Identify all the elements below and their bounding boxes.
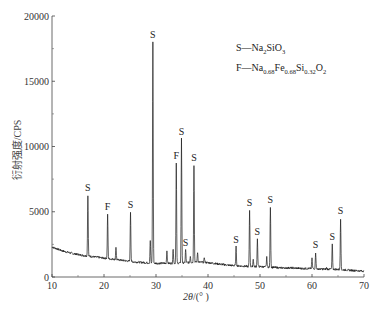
peak-label-s: S [329, 231, 335, 242]
x-tick-label: 60 [307, 280, 317, 291]
y-ticks: 05000100001500020000 [24, 11, 55, 283]
y-axis-label: 衍射强度/CPS [9, 110, 24, 190]
peak-label-s: S [191, 152, 197, 163]
y-tick-label: 10000 [24, 141, 49, 152]
peak-label-s: S [255, 226, 261, 237]
peak-label-s: S [183, 237, 189, 248]
legend-entry-f: F—Na0.68Fe0.68Si0.32O2 [236, 60, 326, 80]
legend: S—Na2SiO3 F—Na0.68Fe0.68Si0.32O2 [236, 40, 326, 80]
legend-f-text2: Fe [275, 62, 285, 73]
peak-label-f: F [173, 150, 179, 161]
legend-entry-s: S—Na2SiO3 [236, 40, 326, 60]
peak-label-s: S [128, 199, 134, 210]
peak-label-s: S [233, 234, 239, 245]
peak-label-s: S [150, 29, 156, 40]
peak-label-s: S [313, 239, 319, 250]
x-tick-label: 30 [151, 280, 161, 291]
peak-label-s: S [179, 126, 185, 137]
x-tick-label: 70 [359, 280, 369, 291]
peak-label-s: S [268, 194, 274, 205]
x-axis-unit: /(° ) [193, 291, 209, 302]
legend-s-text2: SiO [266, 42, 282, 53]
y-tick-label: 20000 [24, 11, 49, 22]
peak-label-s: S [247, 197, 253, 208]
x-tick-label: 50 [255, 280, 265, 291]
legend-f-sub2: 0.68 [285, 68, 296, 75]
x-axis-variable: 2θ [183, 291, 193, 302]
x-axis-label: 2θ/(° ) [183, 291, 209, 302]
x-tick-label: 20 [99, 280, 109, 291]
x-tick-label: 40 [203, 280, 213, 291]
y-tick-label: 15000 [24, 76, 49, 87]
peak-label-f: F [105, 201, 111, 212]
x-ticks: 10203040506070 [47, 274, 369, 291]
legend-f-sub3: 0.32 [304, 68, 315, 75]
legend-f-text: F—Na [236, 62, 263, 73]
y-tick-label: 5000 [29, 206, 49, 217]
legend-s-text: S—Na [236, 42, 263, 53]
legend-f-text4: O [316, 62, 323, 73]
peak-label-s: S [338, 205, 344, 216]
legend-f-sub1: 0.68 [263, 68, 274, 75]
peak-label-s: S [85, 182, 91, 193]
legend-s-sub2: 3 [282, 48, 285, 55]
x-tick-label: 10 [47, 280, 57, 291]
legend-f-sub4: 2 [323, 68, 326, 75]
